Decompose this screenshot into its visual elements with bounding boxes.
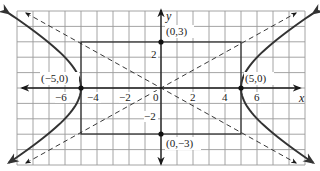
x-tick-6: 6 (254, 91, 260, 103)
y-tick-minus-2: −2 (144, 110, 156, 122)
covertex-bottom-label: (0,−3) (166, 137, 194, 150)
covertex-top-label: (0,3) (166, 25, 187, 38)
origin-label: 0 (153, 91, 159, 103)
x-axis-label: x (298, 91, 305, 105)
x-tick-4: 4 (222, 91, 228, 103)
covertex-top-point (158, 39, 163, 44)
x-tick-minus-2: −2 (119, 91, 131, 103)
y-tick-2: 2 (151, 48, 157, 60)
hyperbola-graph: (−5,0) (5,0) (0,3) (0,−3) x y −6 −4 −2 0… (0, 0, 320, 171)
x-tick-2: 2 (190, 91, 196, 103)
y-axis-label: y (165, 9, 172, 23)
vertex-left-label: (−5,0) (41, 72, 69, 85)
covertex-bottom-point (158, 131, 163, 136)
vertex-right-label: (5,0) (245, 72, 266, 85)
x-tick-minus-4: −4 (87, 91, 99, 103)
x-tick-minus-6: −6 (55, 91, 67, 103)
vertex-left-point (78, 85, 83, 90)
vertex-right-point (238, 85, 243, 90)
